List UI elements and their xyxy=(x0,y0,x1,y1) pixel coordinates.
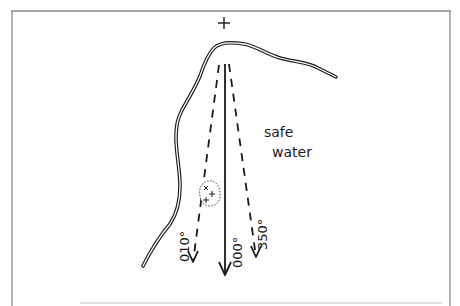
bearing-label-010: 010° xyxy=(177,231,192,262)
bearing-label-350: 350° xyxy=(255,219,270,250)
bearing-label-000: 000° xyxy=(230,237,245,268)
safe-water-label-line2: water xyxy=(272,144,312,160)
rocks-danger-area-icon xyxy=(200,181,221,206)
safe-water-label-line1: safe xyxy=(264,124,293,140)
landmark-cross-icon xyxy=(218,17,230,29)
clearing-bearing-diagram: safe water 010° 000° 350° xyxy=(0,0,460,306)
